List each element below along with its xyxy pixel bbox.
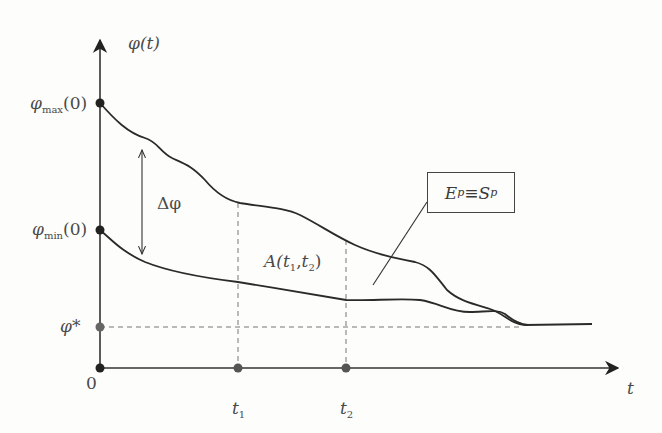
phi-star-label: φ*	[60, 318, 80, 335]
phi-min-marker	[96, 226, 105, 235]
t2-marker	[342, 364, 351, 373]
y-axis-label: φ(t)	[128, 35, 160, 52]
callout-box: Ep ≡ Sp	[427, 172, 515, 213]
phi-max-marker	[96, 99, 105, 108]
phi-max-label: φmax(0)	[30, 95, 87, 115]
phi-min-label: φmin(0)	[32, 221, 87, 241]
t2-label: t2	[340, 400, 353, 420]
origin-marker	[96, 364, 105, 373]
origin-label: 0	[86, 375, 97, 392]
callout-leader	[373, 202, 427, 285]
phi-max-curve	[100, 103, 592, 325]
delta-phi-label: Δφ	[157, 195, 181, 212]
x-axis-label: t	[627, 380, 634, 397]
phi-min-curve	[100, 230, 528, 325]
area-label: A(t1,t2)	[264, 253, 321, 273]
phi-star-marker	[96, 323, 105, 332]
diagram-canvas	[0, 0, 662, 433]
t1-label: t1	[232, 400, 245, 420]
t1-marker	[234, 364, 243, 373]
